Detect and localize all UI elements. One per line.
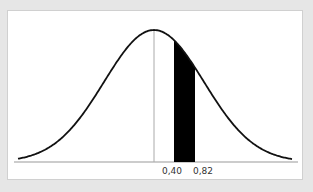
tick-label-high: 0,82 bbox=[193, 166, 213, 176]
normal-curve bbox=[18, 30, 292, 159]
tick-label-low: 0,40 bbox=[162, 166, 182, 176]
normal-curve-chart bbox=[0, 0, 313, 192]
shaded-area bbox=[174, 40, 195, 162]
